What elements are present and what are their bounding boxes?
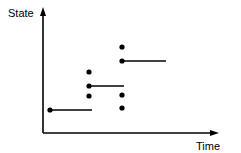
data-point-marker — [119, 44, 124, 49]
state-time-scatter-plot: State Time — [0, 0, 241, 153]
data-point-marker — [119, 105, 124, 110]
plot-background — [0, 0, 241, 153]
y-axis-label: State — [8, 7, 34, 19]
data-point-marker — [119, 58, 124, 63]
x-axis-label: Time — [196, 140, 220, 152]
data-point-marker — [47, 107, 52, 112]
data-point-marker — [119, 92, 124, 97]
data-point-marker — [86, 93, 91, 98]
data-point-marker — [86, 69, 91, 74]
data-point-marker — [86, 83, 91, 88]
figure-root: State Time — [0, 0, 241, 153]
